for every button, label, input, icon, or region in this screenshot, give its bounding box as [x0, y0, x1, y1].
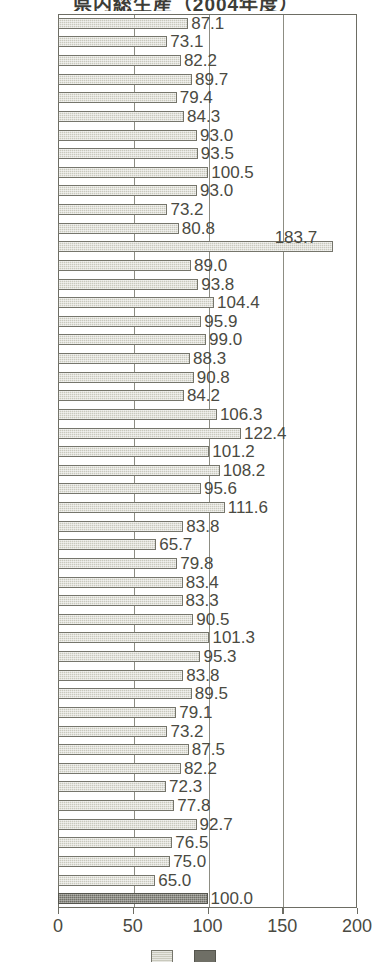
x-axis: 050100150200: [58, 908, 357, 938]
bar: [58, 36, 167, 47]
bar-value-label: 84.2: [187, 387, 220, 404]
bar-row: 73.2: [58, 722, 357, 741]
bar-value-label: 87.1: [191, 15, 224, 32]
bar-value-label: 99.0: [209, 331, 242, 348]
bar: [58, 465, 220, 476]
bar: [58, 726, 167, 737]
bar-value-label: 88.3: [193, 350, 226, 367]
bar-value-label: 83.8: [186, 667, 219, 684]
bar-value-label: 111.6: [228, 499, 268, 516]
bar-row: 93.8: [58, 275, 357, 294]
bar-row: 183.7: [58, 238, 357, 257]
bar: [58, 502, 225, 513]
bar: [58, 279, 198, 290]
bar-value-label: 106.3: [220, 406, 263, 423]
bar-value-label: 100.0: [211, 890, 254, 907]
bar-row: 101.2: [58, 442, 357, 461]
bar-row: 87.1: [58, 14, 357, 33]
bar: [58, 372, 194, 383]
bar-row: 83.8: [58, 666, 357, 685]
bar-value-label: 65.7: [159, 536, 192, 553]
bar-value-label: 93.8: [201, 276, 234, 293]
bar-series: 87.173.182.289.779.484.393.093.5100.593.…: [58, 14, 357, 908]
bar-row: 106.3: [58, 405, 357, 424]
bar-value-label: 65.0: [158, 872, 191, 889]
x-tick-label: 50: [123, 916, 143, 937]
bar-row: 122.4: [58, 424, 357, 443]
bar: [58, 297, 214, 308]
bar: [58, 167, 208, 178]
bar: [58, 428, 241, 439]
bar: [58, 875, 155, 886]
bar: [58, 334, 206, 345]
legend-swatch-light: [151, 950, 173, 962]
bar-row: 73.1: [58, 33, 357, 52]
bar-value-label: 77.8: [177, 797, 210, 814]
bar-value-label: 104.4: [217, 294, 260, 311]
x-tick-mark: [208, 908, 209, 914]
bar: [58, 521, 183, 532]
bar-row: 88.3: [58, 349, 357, 368]
bar-row: 72.3: [58, 778, 357, 797]
bar: [58, 595, 183, 606]
bar-row: 76.5: [58, 834, 357, 853]
bar-row: 83.8: [58, 517, 357, 536]
bar-row: 84.2: [58, 387, 357, 406]
bar: [58, 92, 177, 103]
bar: [58, 316, 201, 327]
bar: [58, 781, 166, 792]
bar-row: 89.7: [58, 70, 357, 89]
bar-row: 101.3: [58, 629, 357, 648]
bar-value-label: 82.2: [184, 52, 217, 69]
bar-value-label: 83.8: [186, 518, 219, 535]
bar-value-label: 95.6: [204, 480, 237, 497]
x-tick-mark: [282, 908, 283, 914]
bar-row: 100.0: [58, 889, 357, 908]
bar-value-label: 100.5: [211, 164, 254, 181]
bar-row: 84.3: [58, 107, 357, 126]
bar-value-label: 73.2: [170, 723, 203, 740]
bar-row: 89.5: [58, 685, 357, 704]
bar: [58, 223, 179, 234]
bar: [58, 260, 191, 271]
bar-row: 65.7: [58, 536, 357, 555]
bar-row: 111.6: [58, 498, 357, 517]
x-tick-label: 150: [267, 916, 297, 937]
legend-entry: [151, 950, 178, 962]
bar-value-label: 73.2: [170, 201, 203, 218]
x-tick-label: 0: [53, 916, 63, 937]
bar-row: 83.3: [58, 591, 357, 610]
bar-row: 79.1: [58, 703, 357, 722]
bar-value-label: 122.4: [244, 425, 287, 442]
bar-value-label: 79.4: [180, 89, 213, 106]
bar: [58, 651, 200, 662]
bar-value-label: 89.0: [194, 257, 227, 274]
bar: [58, 856, 170, 867]
bar: [58, 893, 208, 904]
bar: [58, 409, 217, 420]
bar-value-label: 87.5: [192, 741, 225, 758]
bar-value-label: 89.5: [195, 685, 228, 702]
bar: [58, 446, 209, 457]
bar: [58, 204, 167, 215]
bar-row: 77.8: [58, 796, 357, 815]
legend-swatch-dark: [194, 950, 216, 962]
bar-value-label: 83.3: [186, 592, 219, 609]
bar-value-label: 95.9: [204, 313, 237, 330]
bar-value-label: 73.1: [170, 33, 203, 50]
bar-row: 79.8: [58, 554, 357, 573]
bar-value-label: 90.8: [197, 369, 230, 386]
bar-row: 99.0: [58, 331, 357, 350]
bar-row: 83.4: [58, 573, 357, 592]
bar-value-label: 79.1: [179, 704, 212, 721]
bar-value-label: 95.3: [203, 648, 236, 665]
bar-value-label: 108.2: [223, 462, 266, 479]
bar-value-label: 93.5: [201, 145, 234, 162]
chart-legend: [0, 950, 372, 962]
bar-row: 108.2: [58, 461, 357, 480]
bar-row: 100.5: [58, 163, 357, 182]
bar: [58, 130, 197, 141]
bar: [58, 148, 198, 159]
bar-value-label: 72.3: [169, 778, 202, 795]
bar: [58, 744, 189, 755]
